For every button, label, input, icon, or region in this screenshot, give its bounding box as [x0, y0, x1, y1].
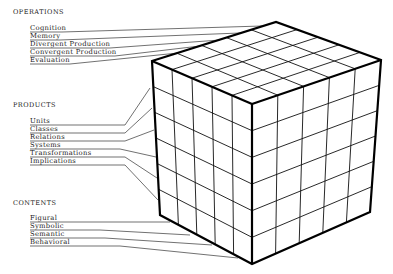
cube-grid — [153, 30, 379, 255]
cube-edges — [152, 22, 381, 264]
leader-lines — [30, 26, 262, 258]
structure-of-intellect-cube — [0, 0, 393, 274]
